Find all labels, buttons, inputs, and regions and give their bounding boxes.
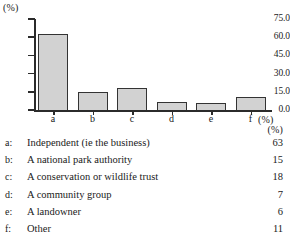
legend-row-key: c:: [5, 169, 12, 185]
y-axis-tick-label: 30.0: [264, 69, 290, 79]
y-axis-tick: [28, 91, 35, 93]
x-axis-label-e: e: [196, 113, 226, 124]
legend-row-description: A landowner: [27, 204, 81, 220]
legend-row: c:A conservation or wildlife trust18: [0, 169, 290, 185]
legend-row: b:A national park authority15: [0, 152, 290, 168]
bar-a: [38, 34, 68, 110]
y-axis-tick-label: 15.0: [264, 87, 290, 97]
y-axis-unit-label: (%): [3, 2, 19, 13]
y-axis-tick: [28, 55, 35, 57]
chart-page: (%) (%) 0.015.030.045.060.075.0 abcdef (…: [0, 0, 290, 237]
bar-b: [78, 92, 108, 110]
legend-row-description: A national park authority: [27, 152, 132, 168]
legend-row: d:A community group7: [0, 187, 290, 203]
y-axis-tick-label: 0.0: [264, 105, 290, 115]
y-axis-tick-label: 75.0: [264, 14, 290, 24]
y-axis-tick-label: 45.0: [264, 50, 290, 60]
legend-row: e:A landowner6: [0, 204, 290, 220]
bar-c: [117, 88, 147, 110]
legend-row-key: b:: [5, 152, 13, 168]
y-axis-line: [34, 19, 36, 111]
legend-row: f:Other11: [0, 221, 290, 237]
bar-e: [196, 103, 226, 110]
y-axis-tick: [28, 109, 35, 111]
x-axis-label-b: b: [78, 113, 108, 124]
legend-value-header: (%): [267, 124, 283, 135]
legend-row-description: Independent (ie the business): [27, 135, 150, 151]
legend-row-description: Other: [27, 221, 51, 237]
legend-row-description: A conservation or wildlife trust: [27, 169, 158, 185]
bar-f: [236, 97, 266, 110]
legend-row-key: d:: [5, 187, 13, 203]
bar-d: [157, 102, 187, 110]
legend-row-key: a:: [5, 135, 12, 151]
x-axis-label-f: f: [236, 113, 266, 124]
x-axis-label-d: d: [157, 113, 187, 124]
legend-row-value: 18: [273, 169, 284, 185]
y-axis-tick: [28, 36, 35, 38]
legend-table: (%) a:Independent (ie the business)63b:A…: [0, 124, 290, 237]
x-axis-label-a: a: [38, 113, 68, 124]
x-axis-line: [34, 110, 272, 112]
legend-row-value: 15: [273, 152, 284, 168]
legend-row-key: f:: [5, 221, 11, 237]
legend-row-key: e:: [5, 204, 12, 220]
legend-row: a:Independent (ie the business)63: [0, 135, 290, 151]
y-axis-tick: [28, 73, 35, 75]
legend-row-value: 6: [278, 204, 283, 220]
legend-row-value: 7: [278, 187, 283, 203]
legend-row-description: A community group: [27, 187, 112, 203]
y-axis-tick-label: 60.0: [264, 32, 290, 42]
legend-row-value: 63: [273, 135, 284, 151]
bar-chart: (%) (%) 0.015.030.045.060.075.0 abcdef: [0, 0, 290, 125]
y-axis-tick: [28, 18, 35, 20]
x-axis-label-c: c: [117, 113, 147, 124]
legend-row-value: 11: [273, 221, 283, 237]
